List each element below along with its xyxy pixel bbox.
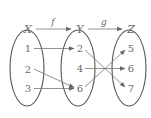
mapping-f-2-to-6 — [34, 69, 74, 88]
y-element-4: 4 — [77, 63, 83, 74]
function-g-label: g — [101, 17, 107, 27]
set-y-label: Y — [76, 23, 85, 36]
function-f-label: f — [50, 17, 56, 27]
x-element-2: 2 — [25, 64, 31, 75]
z-element-7: 7 — [128, 83, 134, 94]
z-element-5: 5 — [128, 43, 134, 54]
y-element-2: 2 — [77, 43, 83, 54]
set-x-label: X — [23, 23, 33, 36]
set-z-label: Z — [126, 23, 135, 36]
function-composition-diagram: X Y Z f g 1 2 3 2 4 6 5 6 7 — [0, 0, 151, 118]
y-element-6: 6 — [77, 83, 83, 94]
z-element-6: 6 — [128, 63, 134, 74]
x-element-1: 1 — [25, 43, 31, 54]
x-element-3: 3 — [25, 83, 31, 94]
